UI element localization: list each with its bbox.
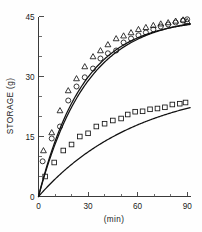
data-point-squares	[78, 134, 83, 139]
data-point-triangles	[136, 26, 142, 31]
y-tick-label: 0	[30, 193, 35, 202]
y-tick-label: 15	[25, 133, 35, 142]
data-point-triangles	[128, 30, 134, 35]
x-axis-title: (min)	[104, 215, 125, 224]
storage-vs-time-scatter-plot: 03060900153045 STORAGE (g) (min)	[0, 0, 202, 232]
data-point-squares	[102, 121, 107, 126]
data-point-triangles	[113, 36, 119, 41]
data-point-circles	[40, 159, 45, 164]
data-point-circles	[82, 75, 87, 80]
data-point-triangles	[121, 33, 127, 38]
data-point-circles	[173, 20, 178, 25]
axis-tick-labels: 03060900153045	[25, 13, 192, 211]
data-point-squares	[133, 109, 138, 114]
data-point-circles	[49, 136, 54, 141]
data-point-squares	[94, 124, 99, 129]
data-point-triangles	[57, 108, 63, 113]
data-point-squares	[177, 101, 182, 106]
data-point-triangles	[49, 130, 55, 135]
data-point-triangles	[65, 88, 71, 93]
y-axis-title: STORAGE (g)	[6, 78, 15, 135]
data-point-triangles	[105, 42, 111, 47]
x-tick-label: 60	[133, 202, 143, 211]
data-point-squares	[140, 109, 145, 114]
data-point-markers	[40, 17, 190, 179]
data-point-circles	[74, 84, 79, 89]
x-tick-label: 90	[183, 202, 193, 211]
data-point-squares	[69, 142, 74, 147]
data-point-squares	[148, 107, 153, 112]
x-tick-label: 30	[84, 202, 94, 211]
data-point-squares	[163, 105, 168, 110]
data-point-circles	[66, 98, 71, 103]
data-point-squares	[183, 100, 188, 105]
axis-ticks	[39, 17, 188, 197]
data-point-circles	[98, 56, 103, 61]
data-point-circles	[158, 24, 163, 29]
data-point-squares	[170, 102, 175, 107]
y-tick-label: 30	[25, 73, 35, 82]
data-point-squares	[119, 116, 124, 121]
data-point-triangles	[74, 76, 80, 81]
chart-figure: 03060900153045 STORAGE (g) (min)	[0, 0, 202, 232]
x-tick-label: 0	[36, 202, 41, 211]
data-point-squares	[125, 112, 130, 117]
data-point-triangles	[90, 54, 96, 59]
data-point-triangles	[143, 24, 149, 29]
data-point-squares	[61, 148, 66, 153]
data-point-triangles	[41, 148, 47, 153]
y-tick-label: 45	[25, 13, 35, 22]
data-point-squares	[155, 106, 160, 111]
data-point-squares	[111, 118, 116, 123]
data-point-triangles	[82, 64, 88, 69]
data-point-squares	[86, 131, 91, 136]
data-point-circles	[105, 51, 110, 56]
axes	[39, 17, 191, 197]
data-point-triangles	[98, 48, 104, 53]
data-point-squares	[52, 160, 57, 165]
